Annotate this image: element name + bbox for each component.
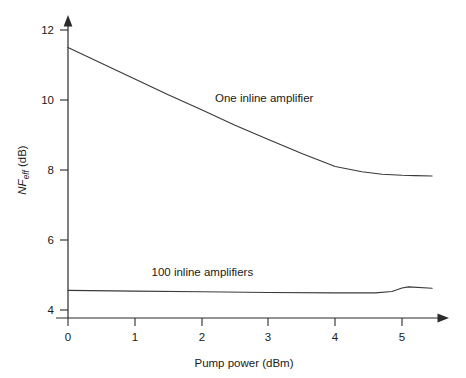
x-tick-label: 1: [132, 331, 138, 343]
series-annotation-one-inline-amplifier: One inline amplifier: [215, 92, 314, 104]
series-annotation-100-inline-amplifiers: 100 inline amplifiers: [152, 266, 254, 278]
y-axis-title-unit: (dB): [16, 145, 28, 170]
y-axis-title-main: NF: [16, 178, 28, 194]
x-tick-label: 0: [65, 331, 71, 343]
y-tick-label: 8: [48, 164, 54, 176]
chart-page: 12 10 8 6 4 NFeff (dB) 0 1 2: [0, 0, 466, 378]
y-tick-label: 4: [48, 304, 55, 316]
x-axis-title: Pump power (dBm): [194, 357, 293, 369]
x-tick-label: 3: [265, 331, 271, 343]
y-tick-label: 6: [48, 234, 54, 246]
chart-background: [0, 0, 466, 378]
y-tick-label: 12: [41, 24, 54, 36]
y-tick-label: 10: [41, 94, 54, 106]
x-tick-label: 2: [199, 331, 205, 343]
x-tick-label: 5: [399, 331, 405, 343]
x-tick-label: 4: [332, 331, 339, 343]
line-chart: 12 10 8 6 4 NFeff (dB) 0 1 2: [0, 0, 466, 378]
